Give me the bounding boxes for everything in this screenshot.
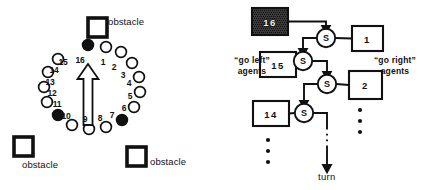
dither-dot xyxy=(285,32,286,33)
dither-dot xyxy=(258,10,259,11)
dither-dot xyxy=(279,24,280,25)
dither-dot xyxy=(254,22,255,23)
dither-dot xyxy=(274,14,275,15)
dither-dot xyxy=(264,34,265,35)
selector-node-label-3: S xyxy=(324,79,330,89)
dither-dot xyxy=(284,10,285,11)
dither-dot xyxy=(266,30,267,31)
dither-dot xyxy=(280,30,281,31)
dither-dot xyxy=(283,16,284,17)
dither-dot xyxy=(254,10,255,11)
dither-dot xyxy=(258,14,259,15)
dither-dot xyxy=(256,10,257,11)
dither-dot xyxy=(284,26,285,27)
dither-dot xyxy=(257,8,258,9)
dither-dot xyxy=(252,10,253,11)
dither-dot xyxy=(282,22,283,23)
dither-dot xyxy=(267,28,268,29)
dither-dot xyxy=(278,14,279,15)
dither-dot xyxy=(261,28,262,29)
dither-dot xyxy=(262,34,263,35)
dither-dot xyxy=(286,18,287,19)
dither-dot xyxy=(253,28,254,29)
dither-dot xyxy=(265,12,266,13)
dither-dot xyxy=(287,12,288,13)
dither-dot xyxy=(253,16,254,17)
dither-dot xyxy=(255,28,256,29)
dither-dot xyxy=(285,12,286,13)
link-selector1-to-selector2 xyxy=(303,38,317,50)
sensor-number-4: 4 xyxy=(127,79,132,88)
dither-dot xyxy=(269,28,270,29)
dither-dot xyxy=(282,30,283,31)
turn-output-label: turn xyxy=(318,172,336,182)
dither-dot xyxy=(287,24,288,25)
dither-dot xyxy=(258,22,259,23)
dither-dot xyxy=(281,24,282,25)
sensor-circle-6 xyxy=(129,102,140,113)
dither-dot xyxy=(281,16,282,17)
dither-dot xyxy=(274,30,275,31)
dither-dot xyxy=(260,14,261,15)
dither-dot xyxy=(279,12,280,13)
dither-dot xyxy=(260,34,261,35)
dither-dot xyxy=(283,20,284,21)
dither-dot xyxy=(255,8,256,9)
dither-dot xyxy=(287,16,288,17)
dither-dot xyxy=(287,8,288,9)
go-right-agents-caption-line-1: “go right” xyxy=(360,55,430,66)
dither-dot xyxy=(275,32,276,33)
dither-dot xyxy=(252,22,253,23)
dither-dot xyxy=(260,26,261,27)
dither-dot xyxy=(269,32,270,33)
dither-dot xyxy=(271,12,272,13)
dither-dot xyxy=(263,8,264,9)
dither-dot xyxy=(281,20,282,21)
dither-dot xyxy=(281,8,282,9)
dither-dot xyxy=(267,32,268,33)
sensor-number-12: 12 xyxy=(47,89,56,98)
dither-dot xyxy=(266,10,267,11)
dither-dot xyxy=(259,24,260,25)
dither-dot xyxy=(273,28,274,29)
dither-dot xyxy=(272,14,273,15)
selector-node-label-4: S xyxy=(301,108,307,118)
left-agent-box-label-box-16: 16 xyxy=(263,16,277,27)
go-right-agents-caption-line-2: agents xyxy=(360,66,430,77)
dither-dot xyxy=(279,8,280,9)
dither-dot xyxy=(254,14,255,15)
dither-dot xyxy=(262,14,263,15)
left-agents-ellipsis-dot xyxy=(266,138,270,142)
dither-dot xyxy=(283,28,284,29)
dither-dot xyxy=(257,28,258,29)
dither-dot xyxy=(275,8,276,9)
figure-root: obstacleobstacleobstacle1234567891011121… xyxy=(0,0,437,190)
dither-dot xyxy=(264,30,265,31)
dither-dot xyxy=(261,16,262,17)
dither-dot xyxy=(280,14,281,15)
sensor-number-6: 6 xyxy=(122,104,127,113)
dither-dot xyxy=(287,20,288,21)
dither-dot xyxy=(258,26,259,27)
dither-dot xyxy=(256,26,257,27)
obstacle-label: obstacle xyxy=(22,160,58,170)
sensor-number-14: 14 xyxy=(49,66,58,75)
dither-dot xyxy=(278,30,279,31)
dither-dot xyxy=(278,18,279,19)
dither-dot xyxy=(284,14,285,15)
dither-dot xyxy=(256,22,257,23)
dither-dot xyxy=(252,30,253,31)
dither-dot xyxy=(276,34,277,35)
dither-dot xyxy=(284,18,285,19)
dither-dot xyxy=(258,18,259,19)
dither-dot xyxy=(285,8,286,9)
dither-dot xyxy=(272,10,273,11)
dither-dot xyxy=(258,30,259,31)
left-agent-box-label-box-14: 14 xyxy=(264,108,278,119)
dither-dot xyxy=(253,24,254,25)
dither-dot xyxy=(266,14,267,15)
dither-dot xyxy=(267,8,268,9)
sensor-circle-8 xyxy=(101,122,112,133)
dither-dot xyxy=(266,34,267,35)
dither-dot xyxy=(262,30,263,31)
